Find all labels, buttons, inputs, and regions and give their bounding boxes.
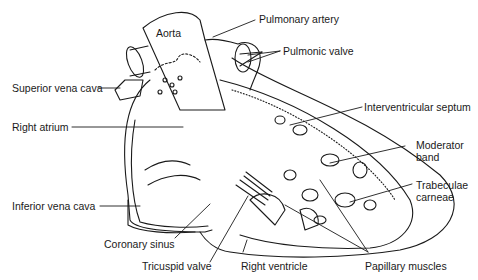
pulmonary-artery-outline — [205, 39, 260, 90]
label-right-ventricle: Right ventricle — [241, 260, 308, 272]
svc-cut — [115, 80, 143, 100]
label-right-atrium: Right atrium — [12, 121, 69, 133]
label-moderator-band-line2: band — [416, 151, 439, 163]
heart-diagram: Aorta Pulmonary artery Pulmonic valve Su… — [0, 0, 478, 280]
label-pulmonary-artery: Pulmonary artery — [259, 13, 339, 25]
right-atrium-outline — [124, 80, 212, 232]
label-papillary-muscles: Papillary muscles — [365, 260, 447, 272]
label-trabeculae-carneae-line2: carneae — [416, 191, 454, 203]
heart-illustration — [0, 0, 478, 280]
label-interventricular-septum: Interventricular septum — [364, 101, 471, 113]
leader-lines — [72, 20, 412, 262]
label-aorta: Aorta — [156, 27, 181, 39]
label-coronary-sinus: Coronary sinus — [104, 238, 175, 250]
label-inferior-vena-cava: Inferior vena cava — [12, 200, 95, 212]
label-pulmonic-valve: Pulmonic valve — [283, 45, 354, 57]
label-moderator-band-line1: Moderator — [416, 139, 464, 151]
svc-opening — [123, 45, 147, 80]
label-superior-vena-cava: Superior vena cava — [12, 82, 102, 94]
label-tricuspid-valve: Tricuspid valve — [142, 260, 212, 272]
pulmonic-valve-opening — [235, 44, 251, 72]
label-trabeculae-carneae-line1: Trabeculae — [416, 179, 468, 191]
